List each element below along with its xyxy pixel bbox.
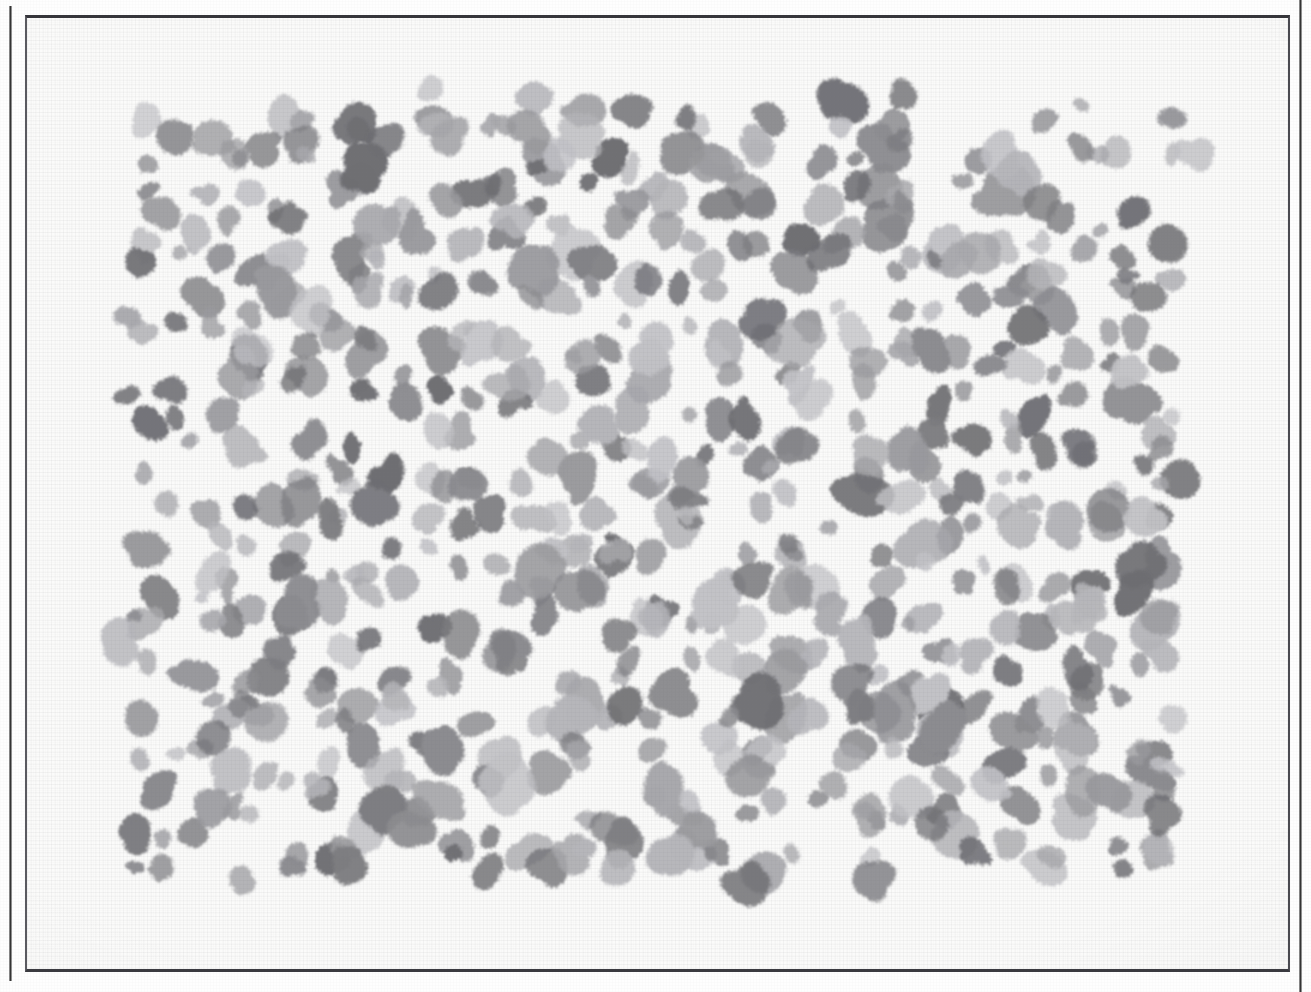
stipple-mark (727, 395, 762, 442)
stipple-mark (455, 383, 488, 414)
stipple-mark (136, 648, 157, 675)
stipple-mark (800, 141, 842, 182)
stipple-mark (134, 152, 161, 178)
stipple-mark (999, 408, 1020, 431)
stipple-mark (274, 770, 297, 793)
stipple-mark (178, 430, 201, 452)
stipple-mark (110, 380, 143, 412)
stipple-mark (415, 74, 445, 103)
stipple-mark (347, 376, 381, 405)
stipple-mark (1026, 230, 1051, 255)
stipple-mark (214, 204, 245, 239)
stipple-mark (131, 764, 187, 816)
stipple-mark (342, 432, 361, 464)
stipple-mark (1026, 257, 1069, 291)
stipple-mark (205, 242, 237, 277)
stipple-mark (950, 377, 976, 404)
stipple-mark (409, 500, 450, 538)
stipple-mark (950, 422, 993, 457)
stipple-mark (1103, 679, 1133, 710)
stipple-mark (280, 475, 322, 529)
stipple-mark (1110, 191, 1156, 234)
stipple-mark (1154, 102, 1189, 135)
stipple-mark (679, 404, 701, 426)
stipple-mark (1155, 701, 1191, 737)
stipple-mark (1117, 312, 1152, 354)
stipple-mark (148, 854, 174, 882)
stipple-mark (1026, 104, 1063, 138)
stipple-mark (188, 181, 221, 208)
stipple-mark (1033, 761, 1063, 791)
stipple-mark (474, 822, 505, 852)
stipple-mark (845, 150, 866, 167)
stipple-mark (1053, 423, 1104, 472)
stipple-mark (507, 109, 552, 154)
stipple-mark (976, 554, 992, 576)
stipple-mark (129, 459, 156, 488)
stipple-mark (994, 468, 1015, 488)
stipple-mark (442, 610, 480, 660)
stipple-mark (290, 418, 328, 461)
stipple-mark (165, 746, 186, 763)
stipple-mark (1071, 95, 1092, 114)
scanned-page (0, 0, 1311, 992)
stipple-mark (1053, 377, 1093, 416)
stipple-mark (1081, 483, 1136, 538)
stipple-mark (953, 278, 996, 322)
stipple-mark (665, 268, 693, 308)
stipple-mark (727, 440, 749, 458)
stipple-mark (849, 791, 889, 840)
left-scan-rule (9, 6, 12, 981)
stipple-mark (1014, 466, 1034, 486)
stipple-mark (868, 563, 907, 602)
stipple-mark (126, 745, 155, 774)
stipple-mark (1044, 362, 1063, 385)
stipple-mark (1109, 856, 1136, 883)
stipple-mark (1106, 834, 1130, 856)
stipple-mark (117, 525, 174, 574)
stipple-mark (504, 465, 539, 501)
stipple-mark (955, 634, 999, 677)
stipple-mark (973, 354, 1007, 377)
stipple-mark (607, 89, 655, 131)
stipple-mark (416, 534, 441, 559)
right-scan-rule (1299, 0, 1302, 992)
stipple-mark (233, 178, 267, 209)
stipple-mark (918, 296, 946, 325)
stipple-mark (900, 592, 949, 640)
stipple-mark (390, 362, 418, 390)
stipple-mark (380, 561, 424, 605)
stipple-mark (448, 554, 471, 582)
stipple-mark (126, 860, 145, 874)
random-dot-field (27, 18, 1288, 969)
stipple-mark (617, 312, 633, 329)
stipple-mark (885, 295, 919, 329)
stipple-mark (642, 205, 689, 254)
stipple-mark (164, 653, 222, 696)
stipple-mark (420, 372, 458, 409)
stipple-mark (678, 313, 701, 337)
figure-plate-frame (25, 15, 1290, 972)
stipple-mark (1168, 125, 1223, 178)
stipple-mark (441, 219, 488, 268)
stipple-mark (467, 270, 499, 297)
stipple-mark (381, 537, 402, 561)
stipple-mark (1107, 242, 1138, 271)
stipple-mark (734, 803, 760, 823)
stipple-mark (479, 547, 514, 583)
dot-field-canvas (27, 18, 1290, 972)
stipple-mark (116, 812, 154, 858)
stipple-mark (237, 802, 261, 826)
stipple-mark (154, 490, 179, 517)
stipple-mark (850, 857, 901, 905)
stipple-mark (160, 306, 190, 337)
stipple-mark (961, 511, 984, 536)
stipple-mark (634, 733, 672, 765)
stipple-mark (682, 646, 701, 673)
stipple-mark (121, 696, 163, 741)
stipple-mark (226, 862, 259, 898)
stipple-mark (771, 477, 798, 509)
stipple-mark (718, 706, 739, 728)
stipple-mark (455, 707, 498, 740)
stipple-mark (1144, 220, 1192, 267)
